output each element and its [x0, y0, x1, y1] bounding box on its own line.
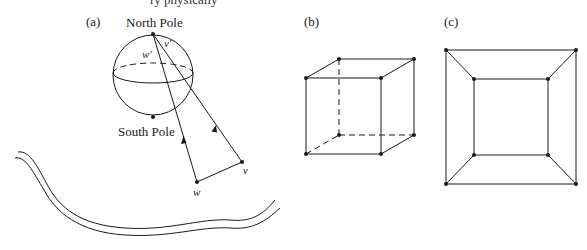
complex-plane-edge: [15, 152, 280, 236]
diagram-canvas: [0, 0, 587, 250]
north-pole-label: North Pole: [126, 16, 183, 29]
w-label: w: [193, 187, 200, 198]
panel-a-label: (a): [86, 15, 100, 28]
panel-c-label: (c): [444, 15, 458, 28]
cube-planar-graph: [446, 50, 576, 184]
panel-b-label: (b): [304, 15, 319, 28]
w-prime-label: w′: [142, 49, 152, 60]
vertices: [151, 32, 578, 186]
v-label: v: [243, 165, 248, 176]
arrowheads: [181, 125, 217, 144]
south-pole-label: South Pole: [118, 125, 175, 138]
v-prime-label: v′: [164, 38, 171, 49]
cube-perspective: [306, 59, 414, 154]
projection-lines: [153, 34, 242, 182]
